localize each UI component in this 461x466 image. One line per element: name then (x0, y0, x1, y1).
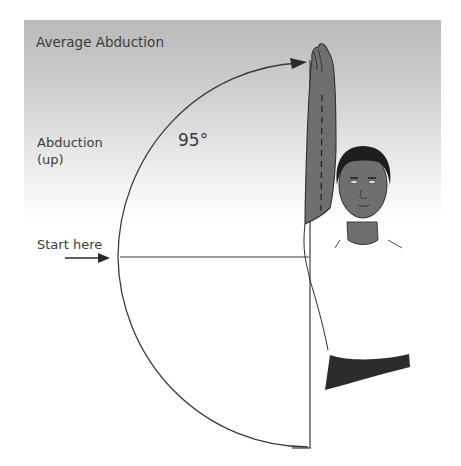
figure-title: Average Abduction (36, 34, 164, 51)
person-head-illustration (335, 146, 402, 248)
motion-label: Abduction (up) (37, 134, 127, 168)
arc-arrowhead-icon (290, 58, 307, 69)
start-label: Start here (37, 236, 102, 253)
motion-label-line1: Abduction (37, 134, 127, 151)
start-arrow-icon (98, 253, 110, 263)
angle-label: 95° (178, 132, 208, 149)
lowered-arm-sleeve (325, 354, 410, 390)
abduction-diagram (0, 0, 461, 466)
range-of-motion-arc (118, 63, 308, 447)
motion-label-line2: (up) (37, 151, 127, 168)
raised-arm-illustration (304, 44, 336, 350)
